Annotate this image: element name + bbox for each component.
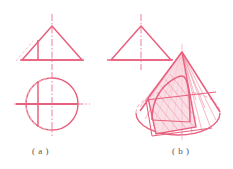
caption-b: ( b ) — [172, 146, 190, 156]
top-view-circle — [14, 72, 90, 136]
technical-drawing-svg — [0, 0, 233, 169]
front-view-triangle — [16, 14, 84, 70]
axonometric-cone — [136, 44, 220, 144]
side-view-triangle — [107, 14, 173, 70]
caption-a: ( a ) — [32, 146, 49, 156]
drawing-sheet: ( a ) ( b ) — [0, 0, 233, 169]
